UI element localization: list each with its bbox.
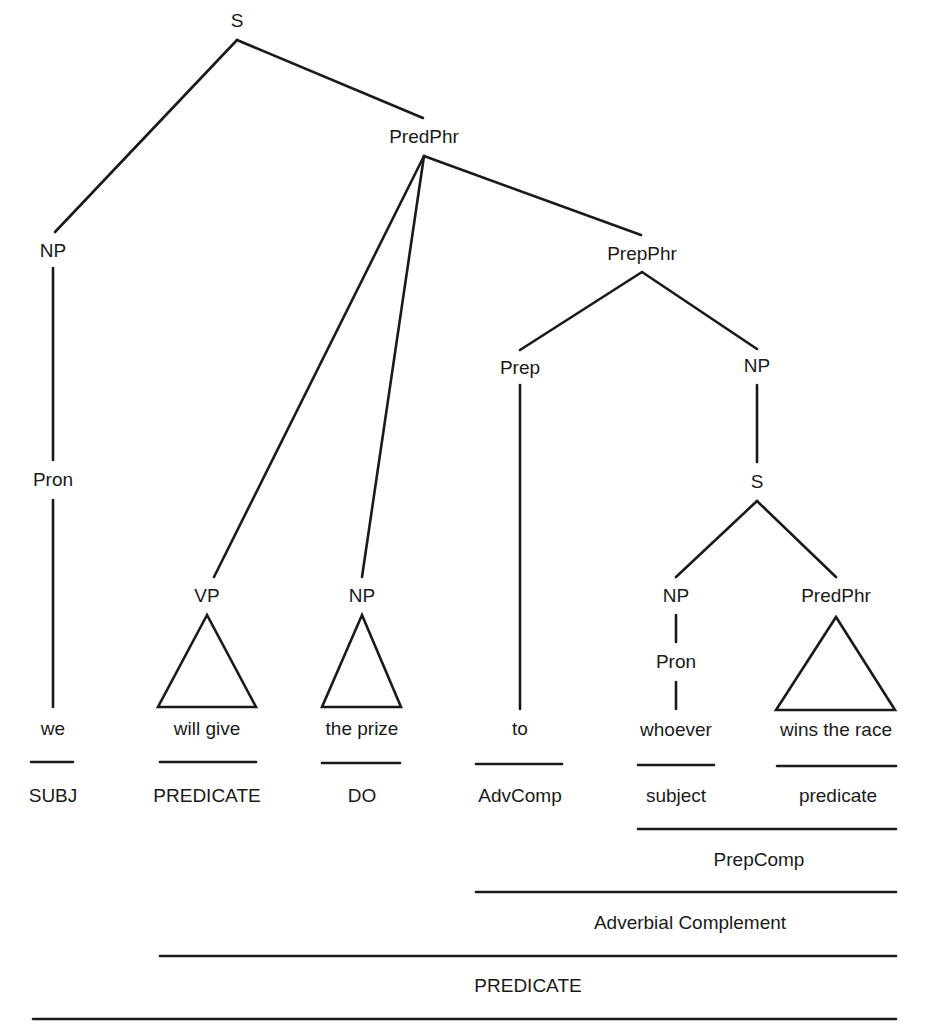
function-label-subj: SUBJ: [29, 785, 78, 806]
tree-edge: [757, 501, 836, 577]
tree-edge: [237, 40, 423, 118]
leaf-wins-the-race: wins the race: [779, 719, 892, 740]
collapsed-subtree-triangle: [158, 615, 256, 707]
node-np-sub2: NP: [663, 585, 689, 606]
node-prepphr: PrepPhr: [607, 243, 677, 264]
node-vp: VP: [194, 585, 219, 606]
leaf-whoever: whoever: [639, 719, 712, 740]
node-np-subj: NP: [40, 240, 66, 261]
leaf-to: to: [512, 718, 528, 739]
tree-edge: [642, 272, 757, 349]
tree-edge: [520, 272, 642, 350]
function-labels: SUBJPREDICATEDOAdvCompsubjectpredicatePr…: [29, 785, 877, 996]
function-label-predicate-long: PREDICATE: [474, 975, 581, 996]
function-label-prepcomp: PrepComp: [714, 849, 805, 870]
function-label-advcomp: AdvComp: [478, 785, 561, 806]
function-label-subject-lower: subject: [646, 785, 707, 806]
node-np-do: NP: [349, 585, 375, 606]
tree-leaves: wewill givethe prizetowhoeverwins the ra…: [40, 718, 892, 740]
node-s-embedded: S: [751, 471, 764, 492]
function-label-adverbial-complement: Adverbial Complement: [594, 912, 787, 933]
node-pron-subj: Pron: [33, 469, 73, 490]
node-predphr-sub: PredPhr: [801, 585, 871, 606]
syntax-tree-diagram: SPredPhrNPPronPrepPhrPrepNPSVPNPNPPredPh…: [0, 0, 925, 1036]
node-prep: Prep: [500, 357, 540, 378]
collapsed-subtrees: [158, 615, 895, 710]
collapsed-subtree-triangle: [322, 615, 401, 707]
leaf-the-prize: the prize: [326, 718, 399, 739]
function-label-do: DO: [348, 785, 377, 806]
tree-edge: [424, 156, 641, 235]
leaf-we: we: [40, 718, 65, 739]
node-np-obj: NP: [744, 355, 770, 376]
leaf-will-give: will give: [173, 718, 241, 739]
node-s-root: S: [231, 10, 244, 31]
node-predphr-main: PredPhr: [389, 126, 459, 147]
collapsed-subtree-triangle: [776, 617, 895, 710]
node-pron-sub2: Pron: [656, 651, 696, 672]
tree-edge: [55, 40, 237, 232]
function-label-predicate-short: PREDICATE: [153, 785, 260, 806]
tree-edge: [676, 501, 757, 577]
tree-svg: SPredPhrNPPronPrepPhrPrepNPSVPNPNPPredPh…: [0, 0, 925, 1036]
function-label-predicate-lower: predicate: [799, 785, 877, 806]
